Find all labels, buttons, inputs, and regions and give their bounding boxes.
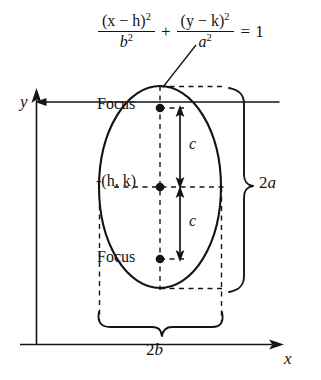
equation-plus-operator: +: [161, 22, 171, 42]
ellipse-figure: (x − h)2 b2 + (y − k)2 a2 = 1 y x Focus …: [0, 0, 321, 380]
ellipse-equation: (x − h)2 b2 + (y − k)2 a2 = 1: [96, 12, 264, 51]
major-axis-label: 2a: [259, 174, 276, 191]
c-measure-arrows: [176, 105, 185, 262]
minor-axis-variable: b: [155, 340, 164, 359]
minor-axis-coefficient: 2: [146, 340, 155, 359]
equation-right-numerator: (y − k)2: [177, 12, 234, 31]
major-axis-variable: a: [268, 173, 277, 192]
equation-right-fraction: (y − k)2 a2: [177, 12, 234, 51]
equation-left-denominator: b2: [116, 32, 137, 51]
equation-right-numerator-text: (y − k): [181, 12, 225, 29]
equation-right-denominator: a2: [194, 32, 215, 51]
center-point: [156, 183, 165, 192]
equation-left-numerator-text: (x − h): [102, 12, 146, 29]
c-bottom-label: c: [189, 213, 196, 229]
brace-major-axis: [229, 88, 253, 292]
major-axis-coefficient: 2: [259, 173, 268, 192]
equation-equals-sign: =: [241, 22, 251, 42]
center-point-label: -(h, k): [96, 173, 136, 189]
c-top-label: c: [189, 136, 196, 152]
brace-minor-axis: [98, 312, 222, 336]
minor-axis-label: 2b: [146, 341, 163, 358]
equation-right-hand-side: 1: [255, 22, 264, 42]
equation-left-denominator-exponent: 2: [128, 32, 133, 43]
equation-right-numerator-exponent: 2: [224, 11, 229, 22]
equation-left-denominator-text: b: [120, 33, 128, 50]
focus-top-point: [156, 104, 165, 113]
focus-bottom-point: [156, 255, 165, 264]
equation-left-numerator: (x − h)2: [98, 12, 155, 31]
equation-right-denominator-exponent: 2: [206, 32, 211, 43]
focus-top-label: Focus: [97, 96, 135, 112]
y-axis-label: y: [20, 93, 28, 110]
equation-left-fraction: (x − h)2 b2: [98, 12, 155, 51]
equation-left-numerator-exponent: 2: [146, 11, 151, 22]
x-axis-label: x: [284, 350, 292, 367]
focus-bottom-label: Focus: [97, 249, 135, 265]
